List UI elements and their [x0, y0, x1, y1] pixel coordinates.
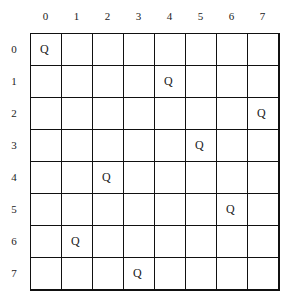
board-cell — [61, 65, 92, 97]
column-label: 2 — [92, 10, 123, 22]
board-cell: Q — [30, 33, 61, 65]
chessboard: QQQQQQQQ — [30, 33, 280, 291]
board-cell — [61, 161, 92, 193]
board-cell — [154, 257, 185, 289]
board-cell: Q — [92, 161, 123, 193]
row-label: 3 — [8, 129, 20, 161]
board-cell: Q — [154, 65, 185, 97]
board-cell — [154, 193, 185, 225]
row-label: 0 — [8, 33, 20, 65]
board-cell — [185, 65, 216, 97]
board-cell — [61, 257, 92, 289]
board-cell — [216, 33, 247, 65]
board-cell — [247, 225, 278, 257]
board-cell — [92, 225, 123, 257]
board-cell — [247, 33, 278, 65]
board-cell — [247, 129, 278, 161]
row-label: 7 — [8, 257, 20, 289]
board-cell — [154, 97, 185, 129]
board-cell — [123, 97, 154, 129]
row-label: 6 — [8, 225, 20, 257]
board-cell — [123, 193, 154, 225]
board-cell — [216, 97, 247, 129]
queen-marker: Q — [226, 202, 235, 217]
board-cell: Q — [216, 193, 247, 225]
queen-marker: Q — [195, 138, 204, 153]
board-cell — [154, 33, 185, 65]
queen-marker: Q — [133, 266, 142, 281]
board-cell — [185, 193, 216, 225]
row-label: 2 — [8, 97, 20, 129]
board-cell — [216, 257, 247, 289]
queen-marker: Q — [40, 42, 49, 57]
column-label: 7 — [247, 10, 278, 22]
column-label: 5 — [185, 10, 216, 22]
board-cell — [123, 161, 154, 193]
board-cell — [247, 193, 278, 225]
board-cell — [92, 65, 123, 97]
board-cell — [216, 65, 247, 97]
board-cell — [247, 65, 278, 97]
board-cell: Q — [123, 257, 154, 289]
board-cell — [30, 193, 61, 225]
board-cell — [185, 97, 216, 129]
queen-marker: Q — [71, 234, 80, 249]
column-label: 0 — [30, 10, 61, 22]
queen-marker: Q — [257, 106, 266, 121]
row-label: 1 — [8, 65, 20, 97]
queen-marker: Q — [164, 74, 173, 89]
board-cell — [185, 257, 216, 289]
board-cell — [61, 193, 92, 225]
board-cell — [185, 161, 216, 193]
board-cell — [61, 97, 92, 129]
board-cell — [30, 97, 61, 129]
board-cell — [154, 225, 185, 257]
board-cell: Q — [185, 129, 216, 161]
board-cell — [92, 129, 123, 161]
board-cell — [92, 97, 123, 129]
board-cell — [30, 161, 61, 193]
queen-marker: Q — [102, 170, 111, 185]
board-cell — [216, 225, 247, 257]
board-cell — [123, 65, 154, 97]
board-cell — [30, 225, 61, 257]
board-cell — [30, 257, 61, 289]
board-cell: Q — [247, 97, 278, 129]
board-cell — [154, 161, 185, 193]
column-label: 3 — [123, 10, 154, 22]
board-cell — [123, 129, 154, 161]
board-cell — [216, 129, 247, 161]
board-cell — [30, 65, 61, 97]
column-label: 6 — [216, 10, 247, 22]
board-cell — [216, 161, 247, 193]
board-cell — [30, 129, 61, 161]
board-cell — [247, 257, 278, 289]
board-cell — [92, 193, 123, 225]
board-cell — [247, 161, 278, 193]
board-cell — [185, 33, 216, 65]
row-label: 4 — [8, 161, 20, 193]
board-cell — [92, 257, 123, 289]
board-cell — [123, 33, 154, 65]
board-cell — [154, 129, 185, 161]
column-label: 1 — [61, 10, 92, 22]
row-label: 5 — [8, 193, 20, 225]
board-cell — [61, 33, 92, 65]
board-cell — [123, 225, 154, 257]
board-cell: Q — [61, 225, 92, 257]
board-cell — [92, 33, 123, 65]
board-cell — [61, 129, 92, 161]
board-cell — [185, 225, 216, 257]
column-label: 4 — [154, 10, 185, 22]
